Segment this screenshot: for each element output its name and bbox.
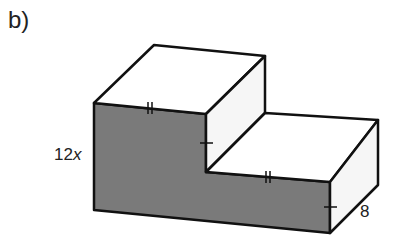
step-prism-diagram: [0, 0, 405, 248]
